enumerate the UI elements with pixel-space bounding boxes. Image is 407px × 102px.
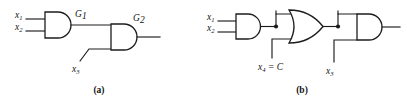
and-gate-g1 [45,12,71,38]
and-gate-g2 [111,24,137,50]
input-label-x1-a: x1 [14,10,23,21]
wire-x3-to-g2 [80,49,111,61]
gate-label-g2: G2 [133,13,145,25]
input-label-x3-b: x3 [325,66,334,77]
panel-a: x1 x2 x3 G1 G2 (a) [14,9,160,96]
wire-junction2-to-and2-top [338,14,357,27]
and-gate-b1 [236,14,260,39]
caption-b: (b) [296,85,308,96]
input-label-x2-a: x2 [14,22,23,33]
caption-a: (a) [93,85,104,96]
logic-circuit-figure: x1 x2 x3 G1 G2 (a) [0,0,407,102]
figure-container: x1 x2 x3 G1 G2 (a) [0,0,407,102]
or-gate-b1 [289,10,323,43]
and-gate-b2 [357,14,382,40]
wire-x3-to-and2 [334,40,357,62]
gate-label-g1: G1 [75,9,87,21]
panel-b: x1 x2 x4 = C x3 (b) [206,10,400,96]
input-label-x2-b: x2 [206,23,215,34]
input-label-x1-b: x1 [206,12,215,23]
input-label-x3-a: x3 [71,64,80,75]
input-label-x4-b: x4 = C [257,62,284,73]
